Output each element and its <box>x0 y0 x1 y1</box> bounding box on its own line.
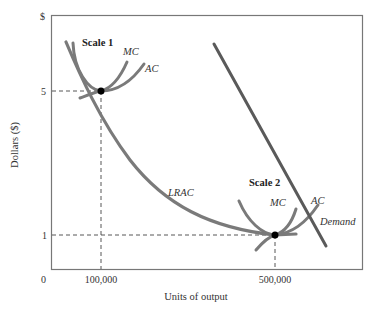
x-tick-100k: 100,000 <box>85 274 118 285</box>
cost-curves-chart: $ 5 1 0 100,000 500,000 Units of output … <box>0 0 372 311</box>
scale2-label: Scale 2 <box>249 177 280 188</box>
y-tick-5: 5 <box>41 86 46 97</box>
scale1-mc-label: MC <box>122 46 140 57</box>
x-axis-title: Units of output <box>164 291 228 302</box>
scale1-mc-curve <box>73 43 127 91</box>
plot-frame <box>52 16 363 270</box>
y-tick-dollar: $ <box>40 11 45 22</box>
scale1-label: Scale 1 <box>82 37 113 48</box>
scale1-ac-label: AC <box>144 63 159 74</box>
demand-line <box>214 44 326 246</box>
scale2-mc-label: MC <box>269 197 287 208</box>
scale2-ac-label: AC <box>310 195 325 206</box>
scale2-min-point <box>272 232 279 239</box>
origin-label: 0 <box>41 274 46 285</box>
demand-label: Demand <box>319 216 356 227</box>
reference-lines <box>52 91 275 269</box>
y-axis-title: Dollars ($) <box>9 122 21 168</box>
scale1-min-point <box>98 88 105 95</box>
scale1-ac-curve <box>80 64 144 98</box>
lrac-curve <box>66 42 296 235</box>
lrac-label: LRAC <box>167 187 195 198</box>
x-tick-500k: 500,000 <box>259 274 292 285</box>
y-tick-1: 1 <box>42 230 47 241</box>
